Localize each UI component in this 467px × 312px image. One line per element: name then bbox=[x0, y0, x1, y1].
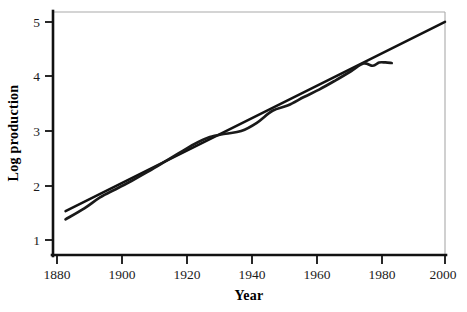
y-tick-label-3: 3 bbox=[33, 124, 40, 139]
x-axis-tick-labels: 1880 1900 1920 1940 1960 1980 2000 bbox=[44, 267, 457, 282]
y-tick-label-5: 5 bbox=[33, 15, 40, 30]
x-axis-title: Year bbox=[234, 288, 263, 303]
x-tick-label-1980: 1980 bbox=[369, 267, 396, 282]
y-tick-label-4: 4 bbox=[33, 69, 40, 84]
x-tick-label-1940: 1940 bbox=[239, 267, 266, 282]
x-tick-label-1960: 1960 bbox=[304, 267, 331, 282]
x-tick-label-1920: 1920 bbox=[174, 267, 201, 282]
x-tick-label-2000: 2000 bbox=[430, 267, 457, 282]
x-tick-label-1900: 1900 bbox=[109, 267, 136, 282]
log-production-line-chart: 5 4 3 2 1 1880 1900 1920 1940 1960 1980 … bbox=[0, 0, 467, 312]
x-tick-label-1880: 1880 bbox=[44, 267, 71, 282]
y-axis-tick-labels: 5 4 3 2 1 bbox=[33, 15, 40, 248]
plot-background bbox=[52, 12, 445, 255]
y-tick-label-1: 1 bbox=[33, 233, 40, 248]
y-tick-label-2: 2 bbox=[33, 179, 40, 194]
x-axis-ticks bbox=[57, 255, 445, 264]
y-axis-title: Log production bbox=[6, 85, 21, 182]
chart-figure: 5 4 3 2 1 1880 1900 1920 1940 1960 1980 … bbox=[0, 0, 467, 312]
